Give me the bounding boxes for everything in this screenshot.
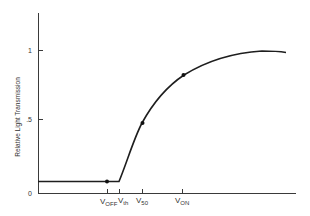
x-ticks: VOFF Vth V50 VON	[100, 189, 189, 207]
y-tick-label-0: 0	[28, 190, 32, 197]
x-tick-label-von: VON	[175, 196, 189, 206]
x-tick-label-vth: Vth	[118, 196, 128, 206]
y-tick-label-1: 1	[28, 47, 32, 54]
y-ticks: 1 .5 0	[26, 47, 43, 197]
transmission-curve	[38, 51, 286, 182]
x-tick-label-voff: VOFF	[100, 197, 118, 207]
marker-von	[182, 73, 186, 77]
y-tick-label-0-5: .5	[26, 116, 32, 123]
y-axis-label: Relative Light Transmission	[14, 77, 22, 157]
marker-voff	[105, 180, 109, 184]
x-tick-label-v50: V50	[136, 196, 149, 206]
chart: Relative Light Transmission 1 .5 0 VOFF …	[0, 0, 310, 216]
marker-v50	[141, 121, 145, 125]
